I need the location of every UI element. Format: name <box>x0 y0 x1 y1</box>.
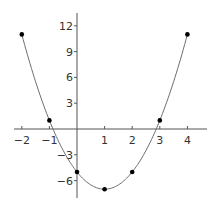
parabola-chart: −2−11234 −6−336912 <box>0 0 220 209</box>
data-points <box>20 32 190 191</box>
y-ticks: −6−336912 <box>57 20 77 188</box>
data-point <box>20 32 25 37</box>
y-tick-label: 6 <box>66 71 73 84</box>
data-point <box>47 118 52 123</box>
data-point <box>102 187 107 192</box>
data-point <box>75 170 80 175</box>
parabola-curve <box>22 34 188 189</box>
y-tick-label: −3 <box>57 149 73 162</box>
x-tick-label: −2 <box>14 134 30 147</box>
x-tick-label: 4 <box>184 134 191 147</box>
data-point <box>130 170 135 175</box>
data-point <box>158 118 163 123</box>
data-point <box>185 32 190 37</box>
x-tick-label: 1 <box>101 134 108 147</box>
axes <box>14 13 207 198</box>
x-tick-label: −1 <box>41 134 57 147</box>
y-tick-label: 12 <box>59 20 73 33</box>
y-tick-label: 9 <box>66 46 73 59</box>
y-tick-label: −6 <box>57 175 73 188</box>
x-tick-label: 3 <box>156 134 163 147</box>
y-tick-label: 3 <box>66 97 73 110</box>
x-tick-label: 2 <box>129 134 136 147</box>
